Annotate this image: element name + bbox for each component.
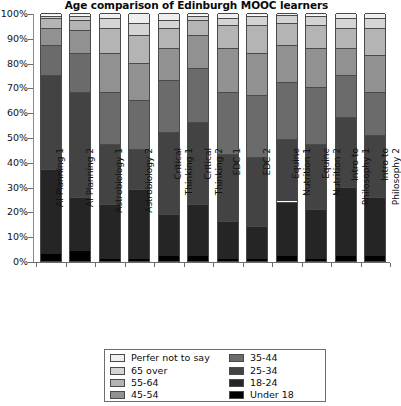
x-axis-label: EDC 1: [232, 148, 243, 268]
legend-swatch: [229, 379, 244, 387]
y-axis-tick-label: 20%: [0, 206, 28, 217]
legend-label: 35-44: [250, 353, 278, 363]
x-axis-label: Critical Thinking 2: [203, 148, 224, 268]
bar-segment: [129, 35, 149, 62]
legend-item[interactable]: Under 18: [229, 389, 294, 401]
y-axis-tick-label: 70%: [0, 82, 28, 93]
bar-segment: [277, 82, 297, 139]
bar-segment: [365, 13, 385, 18]
x-axis-tick: [125, 263, 126, 267]
legend-swatch: [110, 391, 125, 399]
y-axis-tick-label: 50%: [0, 132, 28, 143]
legend-item[interactable]: 65 over: [110, 364, 210, 376]
bar-segment: [129, 23, 149, 35]
bar-segment: [218, 25, 238, 47]
legend-label: 45-54: [131, 390, 159, 400]
x-axis-label: Equine Nutrition 2: [321, 148, 342, 268]
y-axis-tick-label: 40%: [0, 157, 28, 168]
bar-segment: [247, 13, 267, 15]
y-axis-tick-label: 60%: [0, 107, 28, 118]
legend-label: 65 over: [131, 366, 167, 376]
bar-segment: [277, 23, 297, 45]
bar-segment: [70, 16, 90, 21]
bar-segment: [41, 16, 61, 18]
legend-item[interactable]: Perfer not to say: [110, 352, 210, 364]
bar-segment: [100, 18, 120, 28]
bar-segment: [306, 87, 326, 144]
x-axis-label: Intro to Philosophy 2: [380, 148, 401, 268]
bar-segment: [159, 48, 179, 80]
x-axis-tick: [243, 263, 244, 267]
x-axis-label: Astrobiology 2: [144, 148, 155, 268]
y-axis-tick-label: 100%: [0, 8, 28, 19]
bar-segment: [306, 48, 326, 88]
x-axis-label: Critical Thinking 1: [173, 148, 194, 268]
bar-segment: [70, 20, 90, 30]
bar-segment: [41, 18, 61, 28]
bar-segment: [365, 18, 385, 28]
bar-segment: [100, 13, 120, 18]
legend-item[interactable]: 35-44: [229, 352, 294, 364]
legend-swatch: [110, 367, 125, 375]
bar-segment: [218, 92, 238, 154]
y-axis-line: [33, 14, 34, 263]
bar-segment: [218, 48, 238, 93]
bar-segment: [100, 92, 120, 144]
bar-segment: [306, 16, 326, 26]
legend-item[interactable]: 18-24: [229, 377, 294, 389]
y-axis-tick-label: 80%: [0, 58, 28, 69]
legend-item[interactable]: 25-34: [229, 364, 294, 376]
bar-segment: [277, 45, 297, 82]
legend-swatch: [110, 354, 125, 362]
bar-segment: [129, 100, 149, 150]
bar-segment: [365, 28, 385, 55]
bar-segment: [100, 28, 120, 53]
legend-swatch: [229, 367, 244, 375]
bar-segment: [218, 13, 238, 18]
chart-legend: Perfer not to say65 over55-6445-54 35-44…: [104, 349, 326, 402]
bar-segment: [70, 53, 90, 93]
bar-segment: [336, 48, 356, 75]
bar-segment: [277, 15, 297, 22]
x-axis-label: AI Planning 2: [85, 148, 96, 268]
bar-segment: [70, 30, 90, 52]
bar-segment: [41, 45, 61, 75]
bar-segment: [159, 28, 179, 48]
bar-segment: [188, 68, 208, 123]
bar-segment: [218, 18, 238, 25]
bar-segment: [306, 13, 326, 15]
legend-label: Perfer not to say: [131, 353, 210, 363]
bar-segment: [159, 80, 179, 132]
bar-segment: [336, 18, 356, 28]
bar-segment: [41, 28, 61, 45]
chart-title: Age comparison of Edinburgh MOOC learner…: [0, 0, 393, 11]
x-axis-tick: [66, 263, 67, 267]
bar-segment: [159, 13, 179, 20]
bar-segment: [41, 13, 61, 15]
legend-label: 55-64: [131, 378, 159, 388]
y-axis-tick-label: 30%: [0, 182, 28, 193]
bar-segment: [247, 16, 267, 26]
x-axis-label: Intro to Philosophy 1: [350, 148, 371, 268]
bar-segment: [129, 13, 149, 23]
legend-item[interactable]: 55-64: [110, 377, 210, 389]
legend-swatch: [229, 391, 244, 399]
bar-segment: [336, 75, 356, 117]
bar-segment: [159, 20, 179, 27]
legend-swatch: [110, 379, 125, 387]
bar-segment: [336, 13, 356, 18]
legend-column-left: Perfer not to say65 over55-6445-54: [110, 352, 210, 402]
bar-segment: [129, 63, 149, 100]
y-axis-tick-label: 90%: [0, 33, 28, 44]
bar-segment: [277, 13, 297, 15]
legend-item[interactable]: 45-54: [110, 389, 210, 401]
legend-label: 18-24: [250, 378, 278, 388]
y-axis-tick-label: 0%: [0, 256, 28, 267]
bar-segment: [247, 25, 267, 52]
bar-segment: [365, 92, 385, 134]
x-axis-label: EDC 2: [262, 148, 273, 268]
legend-column-right: 35-4425-3418-24Under 18: [229, 352, 294, 402]
legend-label: Under 18: [250, 390, 294, 400]
bar-segment: [188, 20, 208, 35]
bar-segment: [70, 13, 90, 15]
